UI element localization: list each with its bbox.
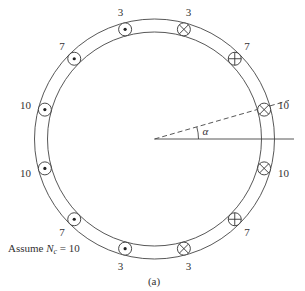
turns-label: 10 (20, 167, 32, 179)
turns-label: 3 (186, 6, 192, 18)
turns-label: 10 (20, 99, 32, 111)
alpha-angle-arc (197, 127, 199, 139)
conductor-slot: 7 (228, 40, 250, 65)
conductor-slot: 7 (228, 213, 250, 238)
turns-label: 7 (244, 40, 250, 52)
turns-label: 7 (59, 226, 65, 238)
turns-label: 7 (59, 40, 65, 52)
dot-mark (73, 57, 76, 60)
turns-label: 7 (244, 226, 250, 238)
conductor-slot: 10 (258, 99, 290, 116)
dot-mark (43, 167, 46, 170)
stator-winding-diagram: α 1073371010733710 Assume Nc = 10 (a) (0, 0, 305, 291)
assumption-note: Assume Nc = 10 (8, 242, 80, 256)
alpha-angle-label: α (203, 125, 209, 137)
note-suffix: = 10 (57, 242, 80, 254)
dot-mark (124, 247, 127, 250)
note-prefix: Assume (8, 242, 46, 254)
turns-label: 10 (278, 99, 290, 111)
conductor-slot: 10 (258, 162, 290, 179)
conductor-slot: 3 (177, 6, 191, 35)
conductor-slot: 3 (177, 242, 191, 271)
turns-label: 3 (118, 6, 124, 18)
conductor-slot: 10 (20, 99, 51, 116)
turns-label: 10 (278, 167, 290, 179)
dot-mark (124, 28, 127, 31)
turns-label: 3 (118, 260, 124, 272)
figure-caption: (a) (148, 275, 161, 288)
dot-mark (43, 108, 46, 111)
conductor-slot: 10 (20, 162, 51, 179)
turns-label: 3 (186, 260, 192, 272)
dot-mark (73, 218, 76, 221)
